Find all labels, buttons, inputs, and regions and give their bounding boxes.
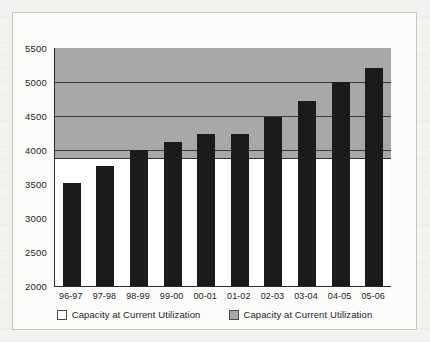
legend-label: Capacity at Current Utilization xyxy=(244,309,373,320)
y-axis: 20002500300035004000450050005500 xyxy=(13,48,51,287)
chart-legend: Capacity at Current UtilizationCapacity … xyxy=(13,309,416,320)
y-tick-label-3000: 3000 xyxy=(25,213,47,224)
legend-entry-1[interactable]: Capacity at Current Utilization xyxy=(57,309,201,320)
bar-96-97[interactable] xyxy=(63,183,81,286)
plot-area xyxy=(54,48,391,287)
bar-slot xyxy=(189,48,223,286)
x-tick-label-02-03: 02-03 xyxy=(261,291,285,301)
bar-slot xyxy=(223,48,257,286)
y-tick-label-3500: 3500 xyxy=(25,179,47,190)
x-tick-label-00-01: 00-01 xyxy=(193,291,217,301)
x-tick-label-98-99: 98-99 xyxy=(126,291,150,301)
y-tick-label-4000: 4000 xyxy=(25,145,47,156)
bar-slot xyxy=(257,48,291,286)
bar-slot xyxy=(290,48,324,286)
y-tick-label-5500: 5500 xyxy=(25,43,47,54)
x-tick-label-01-02: 01-02 xyxy=(227,291,251,301)
bar-slot xyxy=(89,48,123,286)
x-tick-label-03-04: 03-04 xyxy=(294,291,318,301)
x-tick-label-99-00: 99-00 xyxy=(160,291,184,301)
legend-swatch-white xyxy=(57,310,67,320)
x-tick-label-96-97: 96-97 xyxy=(59,291,83,301)
bar-slot xyxy=(357,48,391,286)
y-tick-label-2500: 2500 xyxy=(25,247,47,258)
bar-99-00[interactable] xyxy=(164,142,182,286)
bar-slot xyxy=(324,48,358,286)
bar-97-98[interactable] xyxy=(96,166,114,286)
figure-frame: 20002500300035004000450050005500 96-9797… xyxy=(12,12,417,330)
x-tick-label-04-05: 04-05 xyxy=(328,291,352,301)
bar-01-02[interactable] xyxy=(231,134,249,286)
x-axis: 96-9797-9898-9999-0000-0101-0202-0303-04… xyxy=(54,291,391,307)
bar-02-03[interactable] xyxy=(264,117,282,286)
bar-slot xyxy=(55,48,89,286)
bar-00-01[interactable] xyxy=(197,134,215,286)
x-tick-label-97-98: 97-98 xyxy=(93,291,117,301)
y-tick-label-2000: 2000 xyxy=(25,281,47,292)
bar-04-05[interactable] xyxy=(332,82,350,286)
legend-label: Capacity at Current Utilization xyxy=(72,309,201,320)
y-tick-label-5000: 5000 xyxy=(25,77,47,88)
legend-entry-2[interactable]: Capacity at Current Utilization xyxy=(229,309,373,320)
bar-05-06[interactable] xyxy=(365,68,383,286)
bar-slot xyxy=(122,48,156,286)
y-tick-label-4500: 4500 xyxy=(25,111,47,122)
bar-slot xyxy=(156,48,190,286)
legend-swatch-gray xyxy=(229,310,239,320)
bars-layer xyxy=(55,48,391,286)
bar-98-99[interactable] xyxy=(130,150,148,286)
bar-03-04[interactable] xyxy=(298,101,316,286)
bar-chart: 20002500300035004000450050005500 96-9797… xyxy=(13,13,416,329)
x-tick-label-05-06: 05-06 xyxy=(361,291,385,301)
